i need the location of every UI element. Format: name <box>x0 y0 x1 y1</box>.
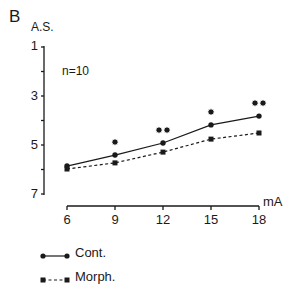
chart-plot <box>0 0 295 298</box>
data-point <box>65 167 70 172</box>
significance-asterisk-icon <box>260 100 267 107</box>
legend-label-cont: Cont. <box>75 245 106 260</box>
significance-asterisk-icon <box>112 139 119 146</box>
series-morph <box>65 130 262 171</box>
data-point <box>209 137 214 142</box>
significance-asterisk-icon <box>208 109 215 116</box>
legend-label-morph: Morph. <box>75 269 115 284</box>
significance-asterisk-icon <box>156 127 163 134</box>
legend-swatch-cont <box>40 253 69 258</box>
data-point <box>256 113 261 118</box>
data-point <box>112 152 117 157</box>
y-axis <box>41 46 44 195</box>
legend-swatch-morph <box>41 278 70 283</box>
significance-asterisk-icon <box>164 127 171 134</box>
legend <box>40 253 69 282</box>
series-layer <box>64 113 261 171</box>
x-axis <box>67 206 259 210</box>
data-point <box>208 122 213 127</box>
data-point <box>113 160 118 165</box>
data-point <box>161 150 166 155</box>
significance-asterisk-icon <box>252 100 259 107</box>
series-cont <box>64 113 261 168</box>
significance-markers <box>112 100 267 146</box>
data-point <box>160 140 165 145</box>
data-point <box>257 130 262 135</box>
